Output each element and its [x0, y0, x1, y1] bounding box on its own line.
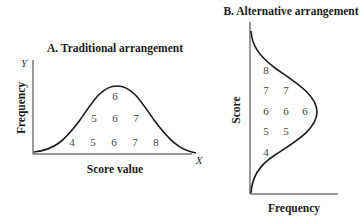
figure: A. Traditional arrangement Y X Frequency… [0, 0, 362, 219]
score-6: 6 [302, 105, 308, 117]
score-6: 6 [112, 112, 118, 124]
panel-a: A. Traditional arrangement Y X Frequency… [15, 42, 204, 175]
panel-a-y-label: Frequency [15, 82, 28, 134]
panel-a-x-label: Score value [87, 163, 143, 175]
score-8: 8 [263, 64, 269, 76]
score-5: 5 [90, 136, 96, 148]
panel-b: B. Alternative arrangement Score Frequen… [223, 5, 358, 215]
score-7: 7 [263, 84, 269, 96]
panel-b-x-label: Frequency [268, 202, 320, 215]
score-6: 6 [283, 105, 289, 117]
score-6: 6 [111, 136, 117, 148]
score-5: 5 [91, 112, 97, 124]
score-5: 5 [263, 125, 269, 137]
score-6: 6 [263, 105, 269, 117]
score-5: 5 [283, 125, 289, 137]
panel-a-x-var: X [195, 154, 204, 166]
panel-b-y-label: Score [230, 96, 242, 123]
score-8: 8 [153, 136, 159, 148]
score-7: 7 [133, 112, 139, 124]
score-6: 6 [112, 90, 118, 102]
score-7: 7 [283, 84, 289, 96]
panel-a-y-var: Y [21, 57, 29, 69]
score-4: 4 [69, 136, 75, 148]
score-4: 4 [263, 146, 269, 158]
score-7: 7 [132, 136, 138, 148]
panel-b-title: B. Alternative arrangement [223, 5, 358, 18]
panel-a-title: A. Traditional arrangement [47, 42, 183, 55]
